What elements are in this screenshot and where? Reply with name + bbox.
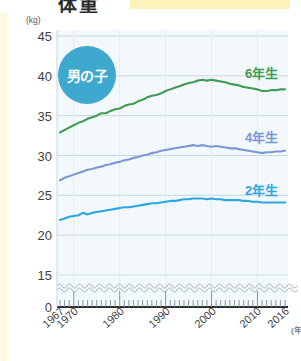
chart-screenshot: 体重 (kg) 015202530354045 男の子 6年生 4年生 2年生 … bbox=[0, 0, 301, 361]
gender-badge: 男の子 bbox=[58, 46, 116, 104]
x-axis-unit: (年) bbox=[291, 324, 301, 335]
series-label-2nd-grade: 2年生 bbox=[245, 180, 278, 199]
series-label-4th-grade: 4年生 bbox=[245, 127, 278, 146]
gender-badge-label: 男の子 bbox=[67, 65, 108, 85]
series-label-6th-grade: 6年生 bbox=[245, 63, 278, 82]
